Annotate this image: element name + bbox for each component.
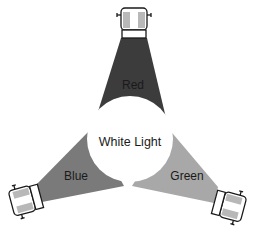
- color-mixing-diagram: Red Blue Green White Light: [0, 0, 254, 233]
- white-light-label: White Light: [99, 135, 162, 149]
- spotlight-top-icon: [117, 8, 151, 38]
- blue-label: Blue: [64, 169, 88, 183]
- red-label: Red: [122, 78, 144, 92]
- green-label: Green: [170, 169, 203, 183]
